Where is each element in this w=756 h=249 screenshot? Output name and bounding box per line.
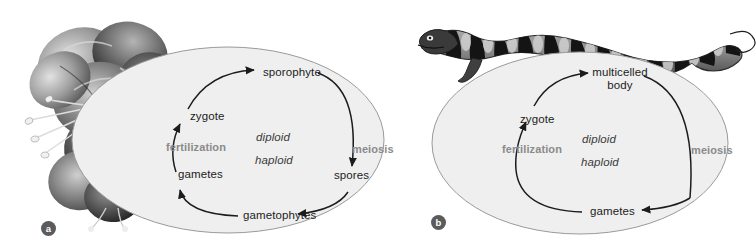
ploidy-label-diploid: diploid xyxy=(256,131,290,143)
stage-label-gametophytes: gametophytes xyxy=(243,209,316,221)
ploidy-label-haploid: haploid xyxy=(255,154,293,166)
figure-root: sporophyte spores gametophytes gametes z… xyxy=(0,0,756,249)
stage-label-zygote: zygote xyxy=(190,110,224,122)
process-label-meiosis: meiosis xyxy=(691,144,733,156)
process-label-meiosis: meiosis xyxy=(352,143,394,155)
process-label-fertilization: fertilization xyxy=(502,143,562,155)
animal-life-cycle-diagram xyxy=(404,0,756,249)
panel-a: sporophyte spores gametophytes gametes z… xyxy=(0,0,404,249)
process-label-fertilization: fertilization xyxy=(166,141,226,153)
ploidy-label-diploid: diploid xyxy=(582,133,616,145)
ploidy-label-haploid: haploid xyxy=(581,156,619,168)
panel-badge-b: b xyxy=(431,215,446,230)
stage-label-multicelled-body: multicelled body xyxy=(589,66,651,91)
stage-label-gametes: gametes xyxy=(178,168,223,180)
stage-label-multicelled-body-line1: multicelled xyxy=(592,66,647,78)
plant-life-cycle-diagram xyxy=(0,0,404,249)
stage-label-sporophyte: sporophyte xyxy=(263,66,321,78)
stage-label-zygote: zygote xyxy=(520,113,554,125)
stage-label-spores: spores xyxy=(334,169,369,181)
panel-badge-a: a xyxy=(41,221,56,236)
stage-label-gametes: gametes xyxy=(590,205,635,217)
cycle-ellipse-background xyxy=(432,52,728,234)
stage-label-multicelled-body-line2: body xyxy=(607,79,632,91)
panel-b: multicelled body gametes zygote meiosis … xyxy=(404,0,756,249)
